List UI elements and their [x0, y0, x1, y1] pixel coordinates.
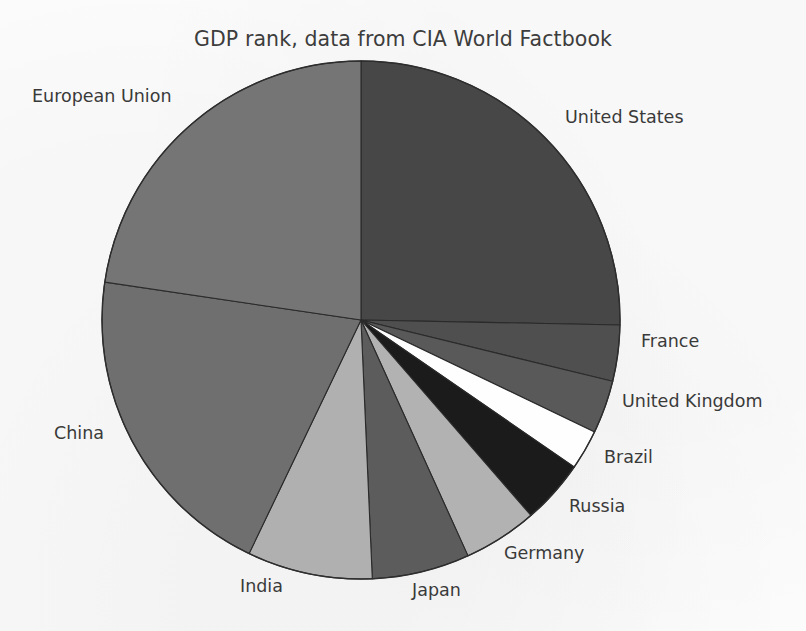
pie-slice-label: Germany — [504, 545, 584, 563]
pie-slice-label: Brazil — [604, 449, 653, 467]
pie-slice[interactable] — [361, 61, 620, 325]
pie-slice-label: Japan — [412, 582, 461, 600]
pie-slice-label: Russia — [569, 498, 625, 516]
pie-slice-group — [102, 61, 620, 579]
pie-slice-label: United States — [565, 109, 684, 127]
pie-chart-figure: GDP rank, data from CIA World Factbook U… — [0, 0, 806, 631]
pie-slice-label: China — [54, 425, 104, 443]
pie-slice-label: United Kingdom — [622, 393, 762, 411]
pie-plot-area: United StatesFranceUnited KingdomBrazilR… — [0, 0, 806, 631]
pie-slice-label: France — [641, 333, 699, 351]
pie-slice-label: European Union — [32, 88, 171, 106]
pie-slice-label: India — [240, 578, 283, 596]
